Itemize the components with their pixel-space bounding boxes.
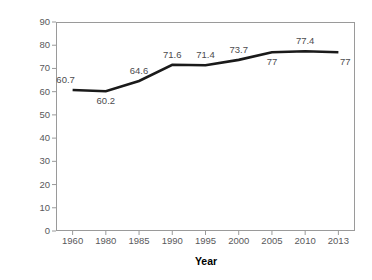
y-axis-tick-label: 90 [20,17,50,27]
y-axis-tick-label: 20 [20,180,50,190]
y-axis-tick-label: 50 [20,110,50,120]
y-axis-tick-label: 70 [20,63,50,73]
y-axis-ticks [52,22,56,231]
y-axis-tick-label: 60 [20,87,50,97]
y-axis-tick-label: 40 [20,133,50,143]
data-point-label: 60.7 [46,75,86,85]
data-point-label: 77.4 [285,36,325,46]
data-point-label: 77 [252,57,292,67]
x-axis-tick-label: 2013 [315,236,361,246]
y-axis-tick-label: 30 [20,156,50,166]
data-point-label: 77 [325,57,365,67]
y-axis-tick-label: 80 [20,40,50,50]
y-axis-tick-label: 10 [20,203,50,213]
data-point-label: 64.6 [119,66,159,76]
y-axis-tick-label: 0 [20,226,50,236]
x-axis-title: Year [56,255,356,267]
data-point-label: 60.2 [86,96,126,106]
line-chart: Female to Male Earnings Ratio (%) 010203… [0,0,372,280]
data-point-label: 73.7 [219,45,259,55]
